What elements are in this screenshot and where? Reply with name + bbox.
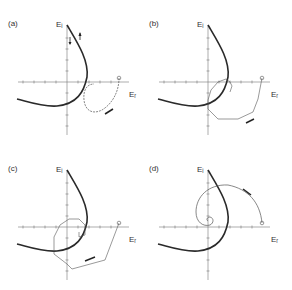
panel-d: [158, 170, 270, 280]
panel-a-y-label: Eᵢ: [56, 20, 63, 29]
panel-d-y-label: Eᵢ: [197, 165, 204, 174]
panel-c-y-label: Eᵢ: [56, 165, 63, 174]
panel-a: [17, 25, 129, 135]
panel-d-label: (d): [149, 164, 159, 173]
figure: (a) Eᵢ Eᵣ (b) Eᵢ Eᵣ (c) Eᵢ Eᵣ (d) Eᵢ Eᵣ: [0, 0, 292, 290]
panel-c-x-label: Eᵣ: [129, 235, 136, 244]
panel-a-label: (a): [8, 19, 18, 28]
panel-b-y-label: Eᵢ: [197, 20, 204, 29]
panel-b-x-label: Eᵣ: [271, 90, 278, 99]
panel-d-x-label: Eᵣ: [271, 235, 278, 244]
panel-c: [17, 170, 129, 280]
panel-b: [158, 25, 270, 135]
panel-c-label: (c): [8, 164, 18, 173]
panel-b-label: (b): [149, 19, 159, 28]
panel-a-x-label: Eᵣ: [129, 90, 136, 99]
